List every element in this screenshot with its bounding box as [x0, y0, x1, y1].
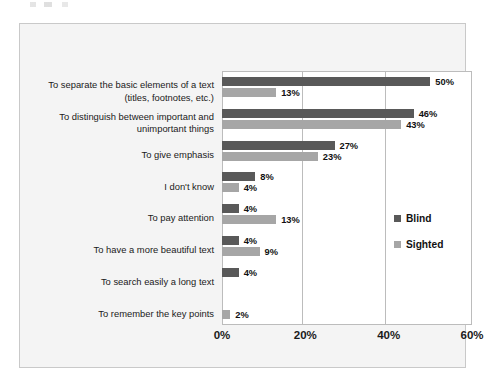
bar-value-label: 50%: [435, 78, 454, 87]
x-axis-tick-label: 20%: [294, 329, 317, 341]
x-axis-tick-label: 40%: [377, 329, 400, 341]
value-axis-labels: 0%20%40%60%: [222, 329, 472, 347]
bar-value-label: 13%: [281, 89, 300, 98]
bar-sighted: [222, 88, 276, 97]
bar-value-label: 27%: [340, 142, 359, 151]
category-axis-labels: To separate the basic elements of a text…: [34, 71, 218, 325]
bar-blind: [222, 77, 430, 86]
chart-legend: BlindSighted: [394, 213, 443, 265]
bars-layer: 50%46%27%8%4%4%4%13%43%23%4%13%9%2%: [222, 71, 472, 325]
bar-value-label: 4%: [244, 184, 257, 193]
legend-label: Blind: [406, 213, 431, 224]
legend-item-sighted: Sighted: [394, 239, 443, 250]
category-label-line: To have a more beautiful text: [34, 244, 214, 257]
bar-value-label: 43%: [406, 121, 425, 130]
category-label: To remember the key points: [34, 308, 214, 321]
category-label-line: To search easily a long text: [34, 276, 214, 289]
bar-blind: [222, 236, 239, 245]
bar-sighted: [222, 183, 239, 192]
category-label: To separate the basic elements of a text…: [34, 79, 214, 104]
category-label-line: To give emphasis: [34, 149, 214, 162]
bar-sighted: [222, 120, 401, 129]
category-label: I don't know: [34, 181, 214, 194]
legend-swatch-icon: [394, 241, 401, 248]
legend-swatch-icon: [394, 215, 401, 222]
bar-sighted: [222, 310, 230, 319]
category-label-line: To pay attention: [34, 212, 214, 225]
legend-item-blind: Blind: [394, 213, 443, 224]
bar-sighted: [222, 215, 276, 224]
category-label-line: I don't know: [34, 181, 214, 194]
bar-value-label: 4%: [244, 205, 257, 214]
bar-blind: [222, 204, 239, 213]
bar-value-label: 8%: [260, 173, 273, 182]
bar-value-label: 46%: [419, 110, 438, 119]
bar-blind: [222, 141, 335, 150]
bar-blind: [222, 109, 414, 118]
bar-value-label: 23%: [323, 153, 342, 162]
category-label: To search easily a long text: [34, 276, 214, 289]
scan-artifact: [30, 2, 100, 7]
category-label-line: To distinguish between important and: [34, 111, 214, 124]
category-label-line: To separate the basic elements of a text: [34, 79, 214, 92]
category-label: To pay attention: [34, 212, 214, 225]
chart-frame: To separate the basic elements of a text…: [19, 23, 466, 368]
bar-value-label: 13%: [281, 216, 300, 225]
category-label-line: To remember the key points: [34, 308, 214, 321]
bar-blind: [222, 172, 255, 181]
bar-value-label: 4%: [244, 237, 257, 246]
x-axis-tick-label: 0%: [214, 329, 231, 341]
category-label: To have a more beautiful text: [34, 244, 214, 257]
bar-value-label: 9%: [265, 248, 278, 257]
category-label-line: unimportant things: [34, 123, 214, 136]
category-label: To distinguish between important andunim…: [34, 111, 214, 136]
bar-blind: [222, 268, 239, 277]
legend-label: Sighted: [406, 239, 443, 250]
bar-value-label: 4%: [244, 269, 257, 278]
bar-value-label: 2%: [235, 311, 248, 320]
x-axis-tick-label: 60%: [460, 329, 483, 341]
bar-sighted: [222, 152, 318, 161]
category-label-line: (titles, footnotes, etc.): [34, 92, 214, 105]
bar-sighted: [222, 247, 260, 256]
category-label: To give emphasis: [34, 149, 214, 162]
